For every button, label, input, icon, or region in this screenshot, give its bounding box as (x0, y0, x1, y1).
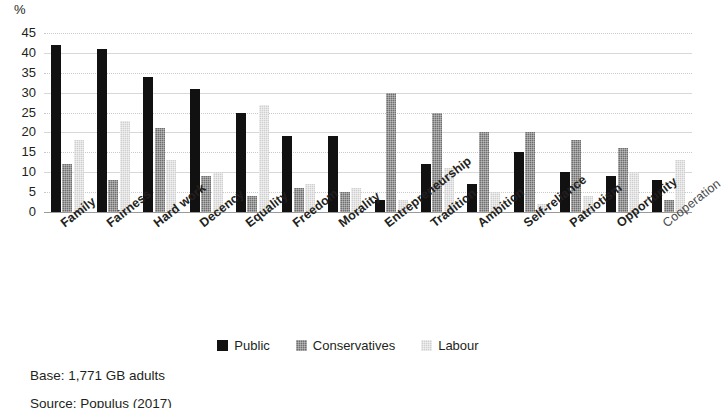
y-axis-unit-label: % (14, 2, 26, 17)
bar-cons (618, 148, 628, 212)
bar-group (51, 33, 84, 212)
y-axis-tick-label: 5 (0, 185, 36, 198)
bar-cons (432, 113, 442, 212)
bar-group (375, 33, 408, 212)
legend-label: Public (234, 338, 269, 353)
legend-label: Conservatives (313, 338, 395, 353)
bar-public (97, 49, 107, 212)
legend: PublicConservativesLabour (0, 338, 696, 353)
y-axis-tick-label: 40 (0, 46, 36, 59)
legend-swatch-icon (296, 340, 307, 351)
legend-item-cons[interactable]: Conservatives (296, 338, 395, 353)
bar-group (97, 33, 130, 212)
y-axis-tick-label: 25 (0, 106, 36, 119)
bar-cons (62, 164, 72, 212)
bar-cons (386, 93, 396, 212)
y-axis-tick-label: 0 (0, 205, 36, 218)
legend-swatch-icon (421, 340, 432, 351)
y-axis-tick-label: 15 (0, 145, 36, 158)
bar-labour (259, 105, 269, 212)
bar-cons (525, 132, 535, 212)
bar-group (236, 33, 269, 212)
legend-item-labour[interactable]: Labour (421, 338, 478, 353)
y-axis-tick-label: 30 (0, 86, 36, 99)
source-note: Source: Populus (2017) (30, 396, 172, 408)
y-axis-tick-label: 10 (0, 165, 36, 178)
bar-group (282, 33, 315, 212)
legend-item-public[interactable]: Public (217, 338, 269, 353)
base-note: Base: 1,771 GB adults (30, 368, 165, 383)
bar-group (328, 33, 361, 212)
bar-public (51, 45, 61, 212)
bar-group (143, 33, 176, 212)
bar-cons (479, 132, 489, 212)
legend-label: Labour (438, 338, 478, 353)
plot-area (44, 33, 692, 212)
bar-cons (155, 128, 165, 212)
y-axis-tick-label: 20 (0, 125, 36, 138)
y-axis-tick-label: 35 (0, 66, 36, 79)
bar-group (467, 33, 500, 212)
legend-swatch-icon (217, 340, 228, 351)
y-axis-tick-label: 45 (0, 26, 36, 39)
